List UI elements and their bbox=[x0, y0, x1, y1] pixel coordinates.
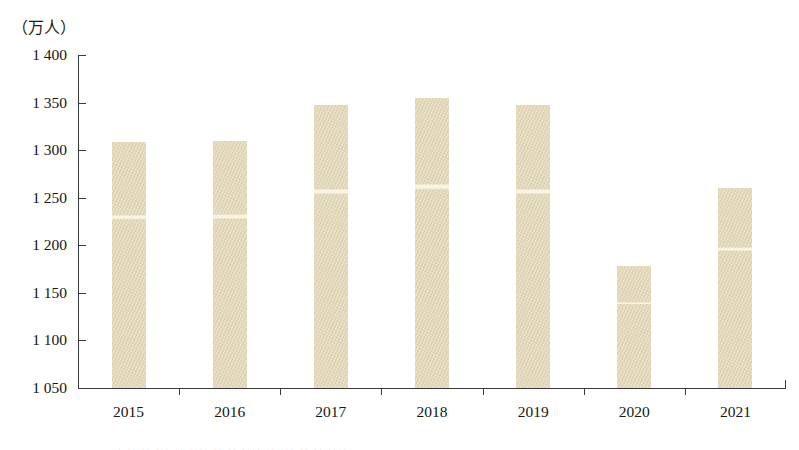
x-axis-tick bbox=[280, 388, 281, 395]
bar-2015 bbox=[112, 142, 146, 388]
bar-2018 bbox=[415, 98, 449, 388]
bar-2017 bbox=[314, 105, 348, 388]
y-axis-tick-label: 1 100 bbox=[32, 331, 67, 349]
y-axis-tick bbox=[79, 103, 86, 104]
x-axis-tick bbox=[381, 388, 382, 395]
x-axis-tick bbox=[483, 388, 484, 395]
x-axis-tick-label-2020: 2020 bbox=[619, 403, 650, 421]
y-axis-tick-label: 1 250 bbox=[32, 189, 67, 207]
y-axis-tick-label: 1 050 bbox=[32, 379, 67, 397]
y-axis-tick-label: 1 350 bbox=[32, 94, 67, 112]
x-axis-tick bbox=[685, 388, 686, 395]
x-axis-line bbox=[78, 388, 786, 389]
x-axis-right-cap bbox=[785, 380, 786, 389]
y-axis-tick bbox=[79, 388, 86, 389]
y-axis-line bbox=[78, 55, 79, 389]
y-axis-tick bbox=[79, 245, 86, 246]
bar-2019 bbox=[516, 105, 550, 388]
y-axis-unit-label: （万人） bbox=[12, 14, 76, 38]
y-axis-tick bbox=[79, 55, 86, 56]
x-axis-tick-label-2019: 2019 bbox=[518, 403, 549, 421]
y-axis-tick-label: 1 200 bbox=[32, 236, 67, 254]
x-axis-tick bbox=[179, 388, 180, 395]
x-axis-tick-label-2018: 2018 bbox=[417, 403, 448, 421]
y-axis-tick-label: 1 150 bbox=[32, 284, 67, 302]
y-axis-tick bbox=[79, 340, 86, 341]
x-axis-tick bbox=[584, 388, 585, 395]
x-axis-tick-label-2021: 2021 bbox=[720, 403, 751, 421]
x-axis-tick-label-2017: 2017 bbox=[315, 403, 346, 421]
y-axis-tick bbox=[79, 150, 86, 151]
bar-2021 bbox=[718, 188, 752, 388]
page-bleed-text: · ·· ·· ··· ·· ···· ·· ·· ···· ·· ··· ··… bbox=[118, 444, 678, 450]
y-axis-tick-label: 1 300 bbox=[32, 141, 67, 159]
x-axis-tick-label-2016: 2016 bbox=[214, 403, 245, 421]
y-axis-tick bbox=[79, 198, 86, 199]
y-axis-tick bbox=[79, 293, 86, 294]
plot-area: 1 0501 1001 1501 2001 2501 3001 3501 400… bbox=[78, 55, 786, 388]
bar-chart: （万人） 1 0501 1001 1501 2001 2501 3001 350… bbox=[0, 0, 799, 450]
bar-2020 bbox=[617, 266, 651, 388]
y-axis-tick-label: 1 400 bbox=[32, 46, 67, 64]
x-axis-tick-label-2015: 2015 bbox=[113, 403, 144, 421]
bar-2016 bbox=[213, 141, 247, 388]
